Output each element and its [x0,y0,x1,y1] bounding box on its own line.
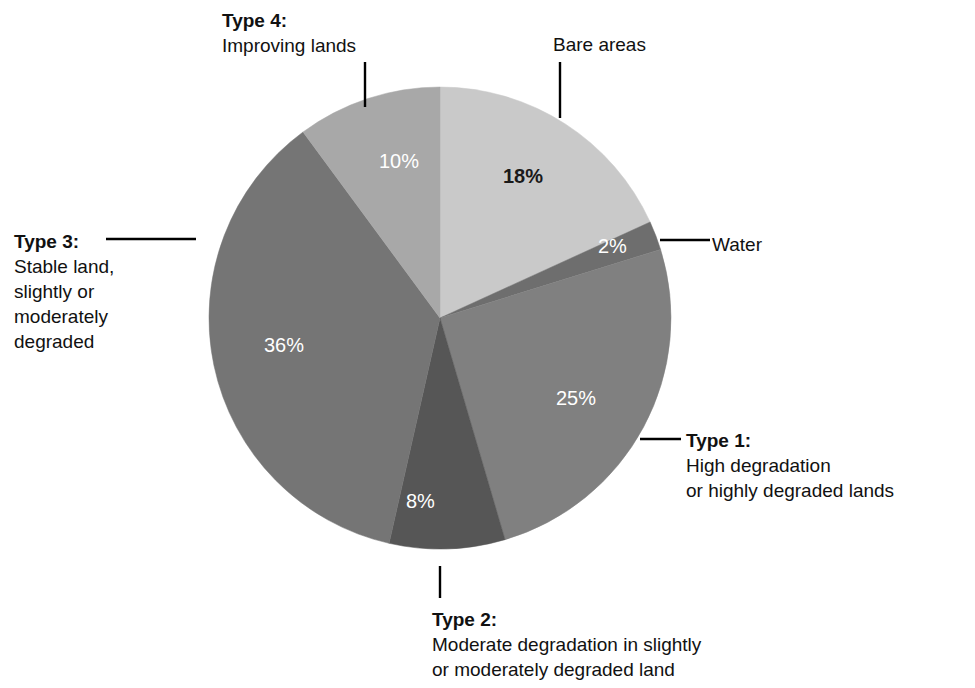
callout-type-1-line-2: or highly degraded lands [686,478,894,503]
slice-value-type-3: 36% [264,334,304,357]
callout-water: Water [712,232,762,257]
slice-value-type-1: 25% [556,387,596,410]
callout-type-2: Type 2: Moderate degradation in slightly… [432,607,701,682]
callout-type-4-lead: Type 4: [222,8,356,33]
callout-type-2-lead: Type 2: [432,607,701,632]
callout-type-3-line-3: moderately [14,304,114,329]
slice-value-bare-areas: 18% [503,165,543,188]
callout-type-4: Type 4: Improving lands [222,8,356,58]
callout-type-1-line-1: High degradation [686,453,894,478]
callout-type-3-line-2: slightly or [14,279,114,304]
callout-type-3-lead: Type 3: [14,229,114,254]
pie-chart-figure: 18% 2% 25% 8% 36% 10% Type 4: Improving … [0,0,975,688]
callout-type-2-line-2: or moderately degraded land [432,657,701,682]
slice-value-water: 2% [598,235,627,258]
slice-value-type-4: 10% [379,150,419,173]
callout-water-line-1: Water [712,232,762,257]
callout-type-2-line-1: Moderate degradation in slightly [432,632,701,657]
pie-chart-canvas [0,0,975,688]
callout-type-1: Type 1: High degradation or highly degra… [686,428,894,503]
callout-type-4-line-1: Improving lands [222,33,356,58]
pie-slices-group [209,87,671,549]
callout-bare-areas: Bare areas [553,32,646,57]
callout-type-1-lead: Type 1: [686,428,894,453]
callout-type-3: Type 3: Stable land, slightly or moderat… [14,229,114,354]
callout-type-3-line-4: degraded [14,329,114,354]
callout-type-3-line-1: Stable land, [14,254,114,279]
slice-value-type-2: 8% [406,490,435,513]
callout-bare-areas-line-1: Bare areas [553,32,646,57]
